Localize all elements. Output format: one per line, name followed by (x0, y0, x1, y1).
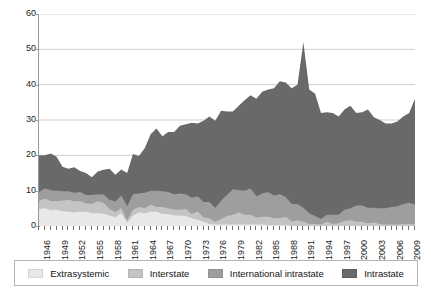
x-tick-label: 1958 (113, 240, 123, 260)
x-tick-mark (308, 226, 309, 230)
x-tick-mark (167, 226, 168, 230)
x-tick-mark (79, 226, 80, 230)
x-tick-mark (103, 226, 104, 230)
x-tick-mark (144, 226, 145, 230)
area-series-group (39, 42, 415, 226)
x-tick-label: 1979 (236, 240, 246, 260)
legend-label: International intrastate (230, 268, 324, 279)
legend-swatch-icon (28, 269, 43, 278)
x-tick-mark (191, 226, 192, 230)
x-tick-mark (232, 226, 233, 230)
x-tick-mark (173, 226, 174, 230)
x-tick-mark (244, 226, 245, 230)
x-tick-mark (273, 226, 274, 230)
x-tick-label: 1970 (183, 240, 193, 260)
y-tick-label: 50 (4, 44, 36, 53)
x-tick-mark (379, 226, 380, 230)
x-tick-mark (396, 226, 397, 230)
legend-swatch-icon (342, 269, 357, 278)
x-tick-mark (373, 226, 374, 230)
x-tick-mark (73, 226, 74, 230)
y-tick-label: 20 (4, 150, 36, 159)
x-tick-mark (44, 226, 45, 230)
y-tick-label: 10 (4, 186, 36, 195)
x-tick-mark (279, 226, 280, 230)
x-tick-label: 1961 (130, 240, 140, 260)
x-tick-mark (156, 226, 157, 230)
legend-swatch-icon (208, 269, 223, 278)
x-tick-mark (185, 226, 186, 230)
x-tick-label: 1964 (148, 240, 158, 260)
x-tick-mark (255, 226, 256, 230)
y-axis: 0102030405060 (0, 0, 36, 240)
x-tick-label: 1946 (42, 240, 52, 260)
legend-item-interstate[interactable]: Interstate (128, 268, 190, 279)
x-tick-label: 1994 (324, 240, 334, 260)
x-tick-mark (291, 226, 292, 230)
x-tick-mark (50, 226, 51, 230)
x-tick-mark (238, 226, 239, 230)
legend-item-extrasystemic[interactable]: Extrasystemic (28, 268, 109, 279)
x-tick-label: 1991 (306, 240, 316, 260)
x-tick-mark (408, 226, 409, 230)
x-tick-mark (161, 226, 162, 230)
x-tick-label: 2003 (377, 240, 387, 260)
x-tick-mark (349, 226, 350, 230)
x-tick-mark (67, 226, 68, 230)
x-tick-mark (361, 226, 362, 230)
x-tick-mark (402, 226, 403, 230)
x-tick-mark (414, 226, 415, 230)
x-tick-mark (109, 226, 110, 230)
x-tick-label: 2000 (359, 240, 369, 260)
legend-swatch-icon (128, 269, 143, 278)
x-tick-mark (285, 226, 286, 230)
x-tick-mark (150, 226, 151, 230)
x-tick-mark (267, 226, 268, 230)
y-tick-label: 0 (4, 221, 36, 230)
x-tick-mark (132, 226, 133, 230)
x-tick-mark (261, 226, 262, 230)
x-tick-label: 1952 (77, 240, 87, 260)
x-tick-mark (138, 226, 139, 230)
x-tick-mark (120, 226, 121, 230)
x-tick-mark (332, 226, 333, 230)
chart-legend: ExtrasystemicInterstateInternational int… (14, 260, 418, 286)
x-tick-label: 1949 (60, 240, 70, 260)
x-tick-label: 2006 (395, 240, 405, 260)
x-tick-mark (97, 226, 98, 230)
legend-label: Interstate (150, 268, 190, 279)
x-tick-label: 1982 (254, 240, 264, 260)
x-tick-mark (391, 226, 392, 230)
plot-area (38, 14, 414, 226)
y-tick-label: 30 (4, 115, 36, 124)
x-tick-mark (214, 226, 215, 230)
x-tick-label: 1976 (218, 240, 228, 260)
x-tick-mark (203, 226, 204, 230)
x-tick-mark (344, 226, 345, 230)
x-tick-mark (297, 226, 298, 230)
x-tick-label: 1997 (342, 240, 352, 260)
x-tick-mark (314, 226, 315, 230)
legend-label: Extrasystemic (50, 268, 109, 279)
x-tick-mark (320, 226, 321, 230)
x-tick-mark (38, 226, 39, 230)
legend-item-intrastate[interactable]: Intrastate (342, 268, 404, 279)
x-tick-label: 1973 (201, 240, 211, 260)
x-tick-mark (385, 226, 386, 230)
x-tick-mark (220, 226, 221, 230)
x-tick-mark (302, 226, 303, 230)
x-tick-label: 1988 (289, 240, 299, 260)
x-tick-mark (367, 226, 368, 230)
y-tick-label: 60 (4, 9, 36, 18)
x-tick-mark (56, 226, 57, 230)
x-tick-mark (326, 226, 327, 230)
x-tick-mark (338, 226, 339, 230)
legend-item-international-intrastate[interactable]: International intrastate (208, 268, 324, 279)
x-tick-mark (114, 226, 115, 230)
x-tick-mark (355, 226, 356, 230)
stacked-area-svg (39, 14, 415, 226)
x-tick-mark (62, 226, 63, 230)
x-tick-label: 2009 (412, 240, 422, 260)
x-tick-mark (85, 226, 86, 230)
x-tick-label: 1985 (271, 240, 281, 260)
